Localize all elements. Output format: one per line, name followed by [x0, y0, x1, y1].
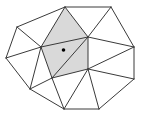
mesh-edge	[88, 69, 99, 109]
mesh-edge	[30, 47, 41, 89]
mesh-edge	[17, 27, 41, 47]
mesh-edge	[64, 69, 88, 109]
mesh-edge	[88, 69, 134, 79]
mesh-edge	[52, 78, 64, 109]
mesh-edge	[88, 47, 134, 69]
mesh-edge	[30, 89, 64, 109]
mesh-edge	[6, 58, 30, 89]
mesh-edge	[111, 7, 134, 47]
mesh-edge	[88, 37, 134, 47]
mesh-edge	[6, 27, 17, 58]
mesh-edge	[88, 7, 111, 37]
triangulation-diagram	[0, 0, 142, 125]
mesh-edge	[6, 47, 41, 58]
query-point	[62, 48, 66, 52]
mesh-edge	[99, 79, 134, 109]
mesh-edge	[30, 78, 52, 89]
